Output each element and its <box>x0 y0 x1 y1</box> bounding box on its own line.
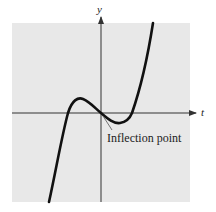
y-axis-label: y <box>97 3 102 15</box>
chart-canvas <box>0 0 216 212</box>
inflection-point-label: Inflection point <box>107 131 181 146</box>
x-axis-label: t <box>201 106 204 118</box>
